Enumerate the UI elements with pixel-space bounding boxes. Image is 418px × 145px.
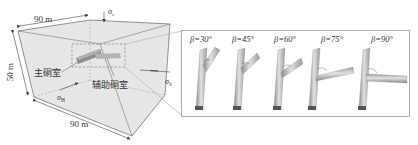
aux-chamber-shape: [95, 53, 121, 59]
height-label: 50 m: [5, 63, 15, 81]
beta-label-60: β=60°: [273, 34, 296, 44]
beta-label-75: β=75°: [320, 34, 343, 44]
width-label-top: 90 m: [34, 14, 52, 24]
stress-vertical-label: σv: [108, 7, 115, 17]
beta-label-30: β=30°: [189, 34, 212, 44]
stress-h-label: σh: [165, 77, 172, 87]
main-chamber-label: 主硐室: [34, 67, 61, 78]
beta-label-90: β=90°: [370, 34, 393, 44]
width-label-bottom: 90 m: [70, 119, 88, 129]
angle-panel: β=30° β=45° β=60° β=75° β=90°: [182, 31, 410, 117]
box-face: [18, 20, 170, 136]
model-diagram: 90 m 50 m 90 m σv σH σh 主硐室 辅助硐室: [0, 0, 418, 145]
aux-chamber-label: 辅助硐室: [92, 79, 128, 90]
beta-label-45: β=45°: [231, 34, 254, 44]
